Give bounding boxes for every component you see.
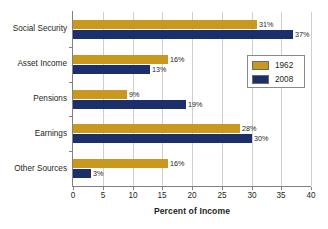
- plot-area: 31%37%16%13%9%19%28%30%16%3%: [73, 12, 311, 186]
- x-axis-tick-label: 40: [299, 191, 323, 201]
- x-axis-tick: [73, 187, 74, 190]
- bar-1962-other-sources: [73, 159, 168, 168]
- legend-label-1962: 1962: [275, 60, 293, 71]
- y-axis-category-label: Pensions: [0, 94, 67, 103]
- y-axis-tick: [69, 151, 73, 152]
- gridline: [311, 12, 312, 186]
- legend-swatch-icon-2008: [252, 75, 269, 84]
- legend-entry-2008: 2008: [252, 74, 302, 85]
- bar-value-label: 37%: [295, 30, 309, 39]
- bar-value-label: 31%: [259, 20, 273, 29]
- x-axis-tick-label: 5: [91, 191, 115, 201]
- bar-1962-asset-income: [73, 55, 168, 64]
- bar-value-label: 3%: [93, 169, 103, 178]
- bar-chart: Social SecurityAsset IncomePensionsEarni…: [0, 0, 328, 229]
- legend-swatch-icon-1962: [252, 61, 269, 70]
- x-axis-tick-label: 30: [240, 191, 264, 201]
- bar-value-label: 30%: [254, 134, 268, 143]
- bar-2008-asset-income: [73, 65, 150, 74]
- y-axis-category-label: Social Security: [0, 24, 67, 33]
- y-axis-category-labels: Social SecurityAsset IncomePensionsEarni…: [0, 12, 71, 186]
- chart-legend: 1962 2008: [247, 55, 305, 88]
- bar-1962-earnings: [73, 124, 240, 133]
- x-axis-tick: [281, 187, 282, 190]
- bar-1962-pensions: [73, 90, 127, 99]
- y-axis-category-label: Asset Income: [0, 59, 67, 68]
- legend-label-2008: 2008: [275, 74, 293, 85]
- x-axis-tick-label: 0: [61, 191, 85, 201]
- bar-2008-earnings: [73, 134, 252, 143]
- bar-value-label: 9%: [129, 90, 139, 99]
- y-axis-category-label: Earnings: [0, 129, 67, 138]
- x-axis-tick-label: 20: [180, 191, 204, 201]
- bar-2008-pensions: [73, 100, 186, 109]
- bar-value-label: 16%: [170, 159, 184, 168]
- x-axis-tick-label: 35: [269, 191, 293, 201]
- bar-1962-social-security: [73, 20, 257, 29]
- legend-entry-1962: 1962: [252, 60, 302, 71]
- bar-value-label: 28%: [242, 124, 256, 133]
- y-axis-tick: [69, 82, 73, 83]
- bar-value-label: 13%: [152, 65, 166, 74]
- bar-value-label: 16%: [170, 55, 184, 64]
- x-axis-tick-label: 15: [150, 191, 174, 201]
- y-axis-tick: [69, 116, 73, 117]
- x-axis-tick-label: 25: [210, 191, 234, 201]
- x-axis-tick: [222, 187, 223, 190]
- bar-2008-social-security: [73, 30, 293, 39]
- x-axis-tick: [192, 187, 193, 190]
- bar-value-label: 19%: [188, 100, 202, 109]
- y-axis-tick: [69, 47, 73, 48]
- x-axis-tick: [133, 187, 134, 190]
- x-axis-tick: [311, 187, 312, 190]
- y-axis-category-label: Other Sources: [0, 164, 67, 173]
- bar-2008-other-sources: [73, 169, 91, 178]
- x-axis-tick: [252, 187, 253, 190]
- x-axis-tick: [162, 187, 163, 190]
- x-axis-tick: [103, 187, 104, 190]
- x-axis-title: Percent of Income: [73, 206, 311, 216]
- x-axis-tick-label: 10: [121, 191, 145, 201]
